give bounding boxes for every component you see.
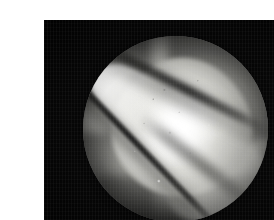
endoscope-field-of-view	[83, 36, 268, 220]
screenshot-root: Arthroscopic view: circular endoscopic f…	[0, 0, 274, 220]
arthroscopic-photo: Arthroscopic view: circular endoscopic f…	[44, 20, 274, 220]
